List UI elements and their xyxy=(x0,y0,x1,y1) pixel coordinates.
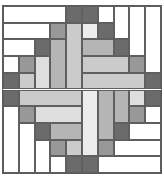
quilt-piece-medlight xyxy=(98,90,114,140)
quilt-piece-dark xyxy=(145,73,161,90)
quilt-piece-white xyxy=(129,6,145,56)
quilt-piece-medlight xyxy=(50,123,82,140)
quilt-piece-medlight xyxy=(114,90,130,123)
quilt-piece-white xyxy=(114,140,161,157)
quilt-piece-dark xyxy=(3,90,19,107)
quilt-piece-white xyxy=(145,106,161,123)
quilt-piece-white xyxy=(3,6,66,23)
quilt-piece-lightest xyxy=(82,23,98,40)
quilt-piece-lighter xyxy=(35,56,51,89)
quilt-piece-medium xyxy=(50,23,66,40)
quilt-piece-dark xyxy=(82,6,98,23)
quilt-piece-dark xyxy=(98,23,114,40)
quilt-piece-lighter xyxy=(129,90,145,107)
quilt-piece-light xyxy=(82,73,145,90)
quilt-piece-dark xyxy=(82,156,98,173)
quilt-piece-white xyxy=(3,39,35,56)
quilt-piece-medium xyxy=(129,106,145,123)
quilt-piece-white xyxy=(98,6,114,23)
quilt-piece-lighter xyxy=(35,106,82,123)
quilt-piece-light xyxy=(82,56,129,73)
quilt-piece-white xyxy=(129,123,161,140)
quilt-piece-medlight xyxy=(82,39,114,56)
quilt-block xyxy=(2,5,162,174)
quilt-piece-dark xyxy=(66,156,82,173)
quilt-piece-light xyxy=(66,140,82,157)
quilt-piece-lightest xyxy=(82,90,98,157)
quilt-piece-white xyxy=(145,6,161,73)
quilt-piece-white xyxy=(3,23,50,40)
quilt-piece-medium xyxy=(19,106,35,123)
quilt-piece-medium xyxy=(98,140,114,157)
quilt-piece-dark xyxy=(3,73,19,90)
quilt-piece-white xyxy=(19,123,35,173)
quilt-piece-medium xyxy=(19,56,35,73)
quilt-piece-dark xyxy=(35,123,51,140)
quilt-piece-dark xyxy=(114,123,130,140)
quilt-piece-dark xyxy=(66,6,82,23)
quilt-piece-white xyxy=(98,156,161,173)
quilt-piece-white xyxy=(3,106,19,173)
quilt-piece-light xyxy=(19,90,82,107)
quilt-piece-medium xyxy=(129,56,145,73)
quilt-piece-white xyxy=(114,6,130,39)
quilt-piece-white xyxy=(50,156,66,173)
quilt-piece-dark xyxy=(114,39,130,56)
quilt-piece-medlight xyxy=(50,39,66,89)
quilt-piece-dark xyxy=(35,39,51,56)
quilt-piece-light xyxy=(19,73,35,90)
quilt-piece-white xyxy=(35,140,51,173)
quilt-piece-dark xyxy=(145,90,161,107)
quilt-piece-light xyxy=(66,23,82,90)
quilt-piece-white xyxy=(3,56,19,73)
quilt-piece-medium xyxy=(50,140,66,157)
